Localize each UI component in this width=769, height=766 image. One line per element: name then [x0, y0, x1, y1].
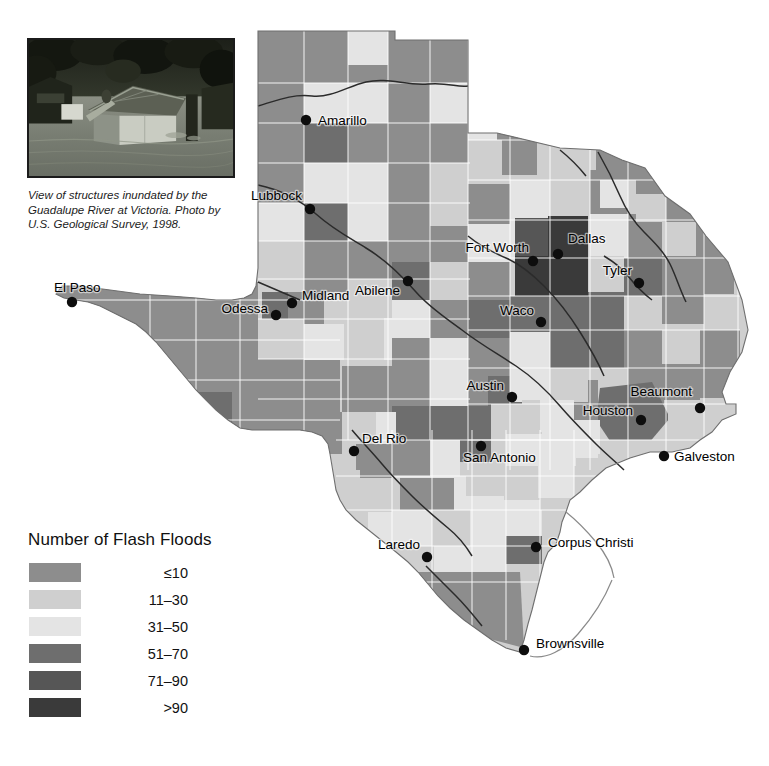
city-dot	[305, 204, 315, 214]
photo-caption-line-2: Guadalupe River at Victoria. Photo by	[28, 203, 234, 218]
legend-swatch	[28, 643, 82, 664]
city-label-halo: Amarillo	[318, 113, 367, 128]
figure-canvas: View of structures inundated by the Guad…	[0, 0, 769, 766]
city-dot	[659, 451, 669, 461]
city-label: Beaumont	[630, 384, 692, 399]
city-label: Austin	[466, 378, 504, 393]
city-dot	[422, 552, 432, 562]
photo-caption-line-3: U.S. Geological Survey, 1998.	[28, 217, 234, 232]
city-label-halo: Galveston	[674, 449, 735, 464]
city-label: Amarillo	[318, 113, 367, 128]
legend-label: 11–30	[82, 592, 202, 608]
city-label-halo: San Antonio	[463, 450, 536, 465]
city-label: Odessa	[221, 301, 268, 316]
city-dot	[476, 441, 486, 451]
city-label-halo: Fort Worth	[465, 240, 529, 255]
city-label-halo: Lubbock	[251, 188, 302, 203]
city-label: Laredo	[378, 537, 420, 552]
city-label: San Antonio	[463, 450, 536, 465]
rivers	[258, 80, 686, 626]
photo-caption: View of structures inundated by the Guad…	[28, 188, 234, 232]
city-dot	[531, 542, 541, 552]
legend-swatch	[28, 697, 82, 718]
legend-swatch	[28, 616, 82, 637]
city-dot	[695, 403, 705, 413]
photo-caption-line-1: View of structures inundated by the	[28, 188, 234, 203]
flood-photo	[27, 38, 235, 178]
city-label: Del Rio	[362, 431, 406, 446]
legend-label: 71–90	[82, 673, 202, 689]
flood-photo-image	[29, 40, 233, 176]
city-label: Fort Worth	[465, 240, 529, 255]
city-dot	[553, 249, 563, 259]
city-label: Corpus Christi	[548, 535, 634, 550]
city-label-halo: Laredo	[378, 537, 420, 552]
city-label-halo: Brownsville	[536, 636, 604, 651]
city-label: Midland	[302, 288, 349, 303]
city-dot	[271, 310, 281, 320]
legend-title: Number of Flash Floods	[28, 530, 241, 550]
legend-item: 31–50	[26, 614, 241, 639]
city-label: Waco	[500, 303, 534, 318]
city-dot	[67, 297, 77, 307]
legend-label: 31–50	[82, 619, 202, 635]
city-label: Brownsville	[536, 636, 604, 651]
city-label-halo: Beaumont	[630, 384, 692, 399]
legend-item: >90	[26, 695, 241, 720]
legend-label: 51–70	[82, 646, 202, 662]
city-label-halo: Houston	[583, 403, 633, 418]
city-label: Houston	[583, 403, 633, 418]
city-dot	[536, 317, 546, 327]
city-label-halo: Odessa	[221, 301, 268, 316]
legend-swatch	[28, 589, 82, 610]
legend-item: ≤10	[26, 560, 241, 585]
legend: Number of Flash Floods ≤1011–3031–5051–7…	[26, 530, 241, 722]
city-dot	[636, 415, 646, 425]
city-dot	[287, 298, 297, 308]
city-dot	[519, 645, 529, 655]
city-label-halo: Dallas	[568, 231, 606, 246]
legend-rows: ≤1011–3031–5051–7071–90>90	[26, 560, 241, 720]
city-dot	[349, 446, 359, 456]
city-label: Lubbock	[251, 188, 302, 203]
city-label-halo: El Paso	[54, 280, 101, 295]
city-label-halo: Del Rio	[362, 431, 406, 446]
legend-item: 71–90	[26, 668, 241, 693]
city-dot	[634, 278, 644, 288]
city-label-halo: Corpus Christi	[548, 535, 634, 550]
legend-item: 51–70	[26, 641, 241, 666]
legend-label: ≤10	[82, 565, 202, 581]
city-label-halo: Midland	[302, 288, 349, 303]
barrier-islands	[530, 512, 614, 657]
city-label: Galveston	[674, 449, 735, 464]
city-dot	[403, 276, 413, 286]
city-label: El Paso	[54, 280, 101, 295]
photo-block: View of structures inundated by the Guad…	[27, 38, 235, 228]
city-dot	[507, 392, 517, 402]
legend-swatch	[28, 562, 82, 583]
city-label: Dallas	[568, 231, 606, 246]
city-label-halo: Tyler	[603, 263, 633, 278]
city-label-halo: Austin	[466, 378, 504, 393]
city-label: Abilene	[355, 283, 400, 298]
city-dot	[301, 115, 311, 125]
legend-swatch	[28, 670, 82, 691]
legend-label: >90	[82, 700, 202, 716]
city-label-halo: Abilene	[355, 283, 400, 298]
city-label: Tyler	[603, 263, 633, 278]
legend-item: 11–30	[26, 587, 241, 612]
city-dot	[528, 256, 538, 266]
city-label-halo: Waco	[500, 303, 534, 318]
